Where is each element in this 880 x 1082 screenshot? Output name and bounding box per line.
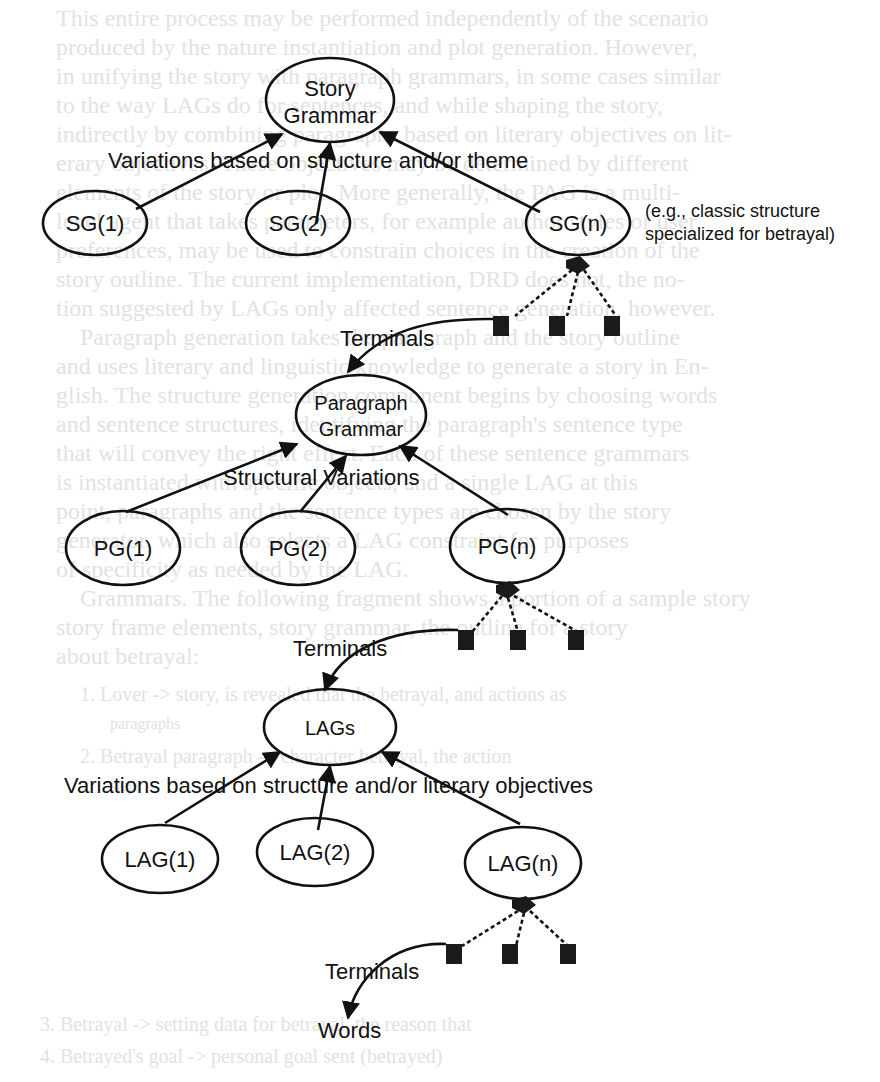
dotted-edge — [508, 598, 518, 632]
terminals-label: Terminals — [325, 959, 419, 984]
annotation-label: (e.g., classic structure — [645, 201, 820, 221]
terminal-square — [568, 630, 584, 650]
level-lags: LAGs Variations based on structure and/o… — [64, 689, 593, 1018]
node-label: Grammar — [284, 103, 377, 128]
grammar-hierarchy-diagram: Story Grammar Variations based on struct… — [0, 0, 880, 1082]
node-label: PG(2) — [269, 536, 328, 561]
node-label: LAGs — [305, 717, 355, 739]
terminal-square — [510, 630, 526, 650]
node-paragraph-grammar: Paragraph Grammar — [296, 375, 426, 455]
node-lag-1: LAG(1) — [102, 825, 218, 893]
variation-label: Variations based on structure and/or the… — [108, 148, 528, 173]
node-label: PG(n) — [478, 534, 537, 559]
node-lag-n: LAG(n) — [465, 827, 581, 899]
dotted-edge — [516, 913, 524, 946]
terminals-label: Terminals — [340, 326, 434, 351]
node-label: LAG(n) — [488, 851, 559, 876]
node-lag-2: LAG(2) — [257, 818, 373, 886]
annotation-label: specialized for betrayal) — [645, 224, 835, 244]
dotted-edge — [462, 911, 518, 946]
terminal-square — [502, 944, 518, 964]
node-pg-2: PG(2) — [241, 511, 355, 585]
node-label: PG(1) — [94, 536, 153, 561]
dotted-edge — [530, 911, 568, 946]
node-label: SG(1) — [66, 211, 125, 236]
dotted-edge — [567, 272, 578, 316]
node-label: Paragraph — [314, 392, 407, 414]
level-paragraph-grammar: Paragraph Grammar Structural Variations … — [66, 375, 584, 690]
node-pg-n: PG(n) — [450, 509, 564, 583]
node-label: LAG(2) — [280, 840, 351, 865]
node-sg-1: SG(1) — [43, 191, 147, 255]
dotted-edge — [515, 270, 572, 316]
dotted-edge — [514, 596, 578, 632]
dotted-edge — [584, 270, 616, 316]
terminal-square — [604, 316, 620, 336]
terminal-square — [549, 316, 565, 336]
node-lags: LAGs — [264, 689, 396, 765]
terminal-square — [560, 944, 576, 964]
node-label: Story — [304, 76, 355, 101]
node-story-grammar: Story Grammar — [266, 58, 394, 142]
terminal-square — [493, 316, 509, 336]
node-label: Grammar — [319, 418, 404, 440]
variation-label: Structural Variations — [223, 465, 419, 490]
words-output-label: Words — [318, 1018, 381, 1043]
terminals-label: Terminals — [293, 636, 387, 661]
node-label: SG(n) — [549, 211, 608, 236]
node-label: SG(2) — [269, 211, 328, 236]
node-pg-1: PG(1) — [66, 511, 180, 585]
terminal-square — [458, 630, 474, 650]
variation-label: Variations based on structure and/or lit… — [64, 773, 593, 798]
node-sg-n: SG(n) — [526, 191, 630, 255]
terminal-square — [446, 944, 462, 964]
dotted-edge — [472, 596, 502, 632]
level-story-grammar: Story Grammar Variations based on struct… — [43, 58, 835, 372]
node-sg-2: SG(2) — [246, 191, 350, 255]
node-label: LAG(1) — [125, 847, 196, 872]
